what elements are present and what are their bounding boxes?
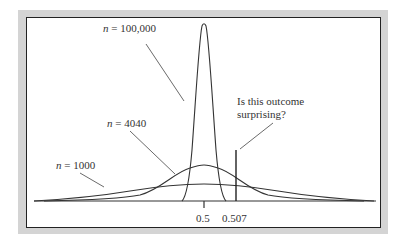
curve-n100000: [182, 24, 226, 201]
leader-n4040: [130, 131, 175, 174]
leader-question: [240, 123, 273, 149]
tick-label-center: 0.5: [196, 212, 210, 224]
label-n100000: n = 100,000: [103, 22, 156, 34]
curve-n1000: [34, 184, 374, 201]
leader-n100000: [146, 44, 184, 101]
label-n1000: n = 1000: [56, 159, 95, 171]
distribution-plot: [0, 0, 403, 244]
label-n4040: n = 4040: [107, 117, 146, 129]
tick-label-observed: 0.507: [222, 212, 247, 224]
leader-n1000: [80, 173, 104, 187]
annotation-question-line2: surprising?: [237, 108, 286, 120]
annotation-question-line1: Is this outcome: [237, 95, 304, 107]
